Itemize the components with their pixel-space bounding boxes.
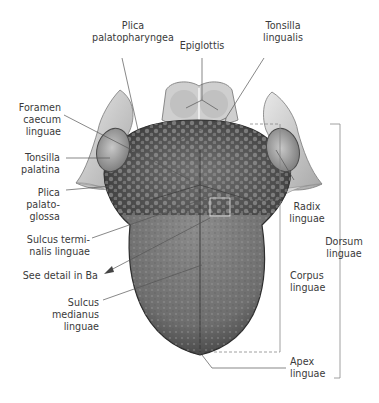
- label-epiglottis: Epiglottis: [172, 40, 232, 52]
- label-corpus-linguae: Corpus linguae: [290, 270, 350, 294]
- epiglottis-shape: [162, 82, 238, 126]
- label-dorsum-linguae: Dorsum linguae: [314, 236, 374, 260]
- label-apex-linguae: Apex linguae: [290, 356, 350, 380]
- label-plica-palatoglossa: Plica palato- glossa: [0, 187, 60, 223]
- label-sulcus-medianus: Sulcus medianus linguae: [0, 297, 99, 333]
- label-foramen-caecum: Foramen caecum linguae: [0, 102, 61, 138]
- label-see-detail: See detail in Ba: [0, 270, 98, 282]
- label-tonsilla-palatina: Tonsilla palatina: [0, 152, 60, 176]
- label-sulcus-terminalis: Sulcus termi- nalis linguae: [0, 234, 90, 258]
- label-radix-linguae: Radix linguae: [284, 201, 330, 225]
- label-tonsilla-lingualis: Tonsilla lingualis: [248, 20, 318, 44]
